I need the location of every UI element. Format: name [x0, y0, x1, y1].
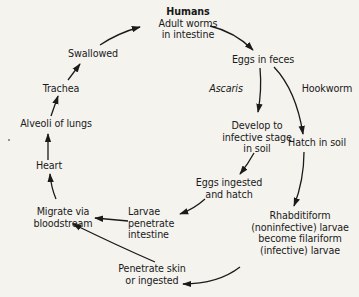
node-migrate-bloodstream: Migrate via bloodstream	[28, 206, 98, 229]
stray-mark	[8, 139, 10, 141]
node-larvae-penetrate: Larvae penetrate intestine	[128, 206, 182, 241]
node-heart: Heart	[32, 160, 66, 172]
node-penetrate-skin: Penetrate skin or ingested	[112, 263, 192, 286]
arrow-hatch-to-rhabditiform	[294, 152, 304, 206]
node-eggs-in-feces: Eggs in feces	[226, 54, 300, 66]
arrow-migrate-to-heart	[50, 174, 56, 199]
arrow-swallowed-to-humans	[100, 27, 140, 45]
arrow-develop-to-eggsingested	[240, 153, 254, 174]
node-hatch-in-soil: Hatch in soil	[282, 137, 352, 149]
node-alveoli: Alveoli of lungs	[12, 118, 100, 130]
arrow-eggsingested-to-larvae	[180, 199, 205, 214]
arrow-trachea-to-swallowed	[68, 64, 80, 80]
arrow-eggs-to-develop	[258, 68, 261, 112]
arrow-larvae-to-migrate	[95, 218, 128, 221]
node-humans: Humans Adult worms in intestine	[150, 6, 226, 41]
node-humans-title: Humans	[150, 6, 226, 18]
node-rhabditiform: Rhabditiform (noninfective) larvae becom…	[244, 210, 356, 256]
node-swallowed: Swallowed	[62, 48, 124, 60]
node-eggs-ingested: Eggs ingested and hatch	[190, 177, 268, 200]
arrow-alveoli-to-trachea	[51, 96, 58, 116]
label-ascaris: Ascaris	[206, 83, 246, 95]
node-trachea: Trachea	[38, 83, 84, 95]
label-hookworm: Hookworm	[298, 83, 356, 95]
